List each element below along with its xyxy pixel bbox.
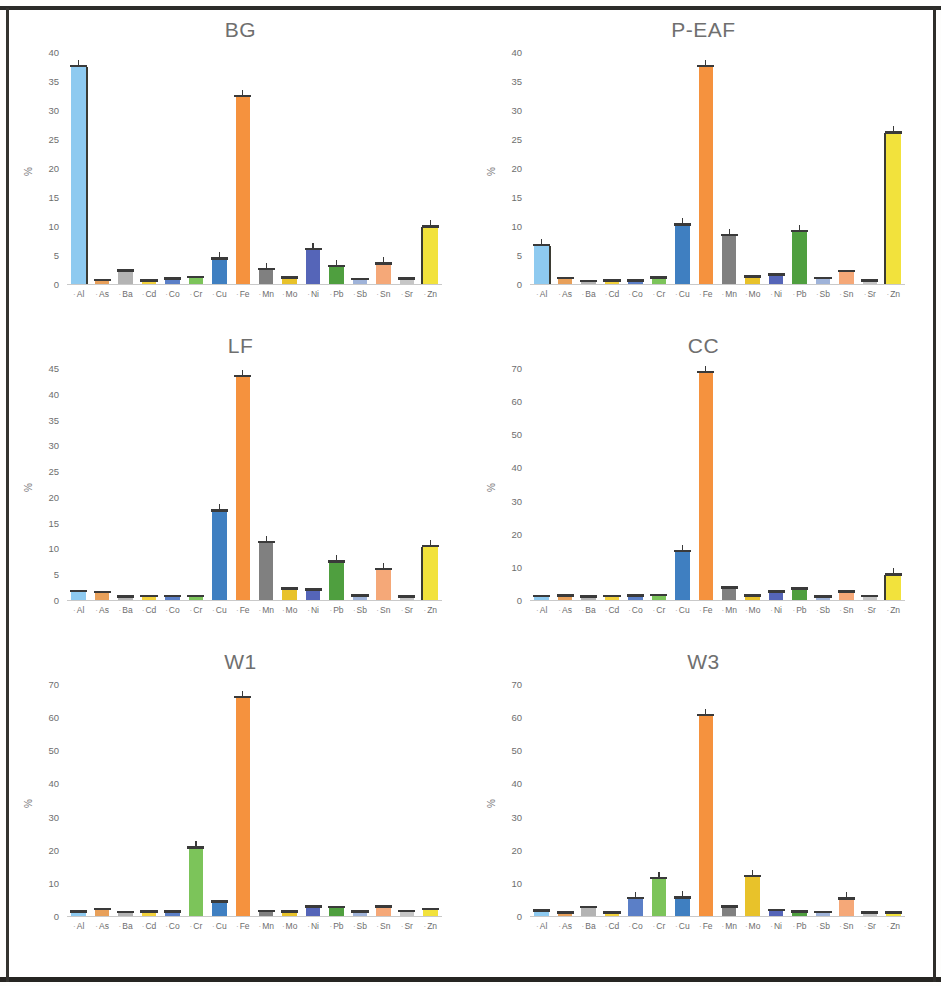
x-tick-label-text: Al [540,605,548,615]
bar-fill [886,575,901,600]
x-tick-label-text: Ni [311,605,319,615]
x-tick-label-ba: ·Ba [119,605,133,615]
chart-panel-w3: W3%010203040506070·Al·As·Ba·Cd·Co·Cr·Cu·… [472,650,935,966]
x-tick-label-text: Co [169,605,180,615]
tick-dot-icon: · [95,606,98,615]
x-tick-label-text: Fe [703,605,713,615]
x-tick-label-text: Mo [286,921,298,931]
error-bar-whisker [266,536,267,543]
x-tick-label-al: ·Al [536,289,547,299]
bar-ni [306,907,321,916]
x-tick-label-cr: ·Cr [190,921,203,931]
y-tick-label: 40 [472,778,522,789]
y-tick-label: 0 [472,279,522,290]
x-axis-line [530,916,905,917]
error-bar-whisker [195,841,196,848]
y-tick-label: 40 [9,47,59,58]
tick-dot-icon: · [236,290,239,299]
y-tick-label: 40 [9,388,59,399]
tick-dot-icon: · [582,606,585,615]
error-bar-cap [861,279,878,282]
x-tick-label-text: As [99,289,109,299]
bar-zn [886,133,901,284]
tick-dot-icon: · [721,290,724,299]
bar-fill [236,97,251,284]
bar-fill [329,908,344,916]
x-tick-label-text: Sb [357,605,367,615]
y-tick-label: 5 [472,250,522,261]
tick-dot-icon: · [73,606,76,615]
tick-dot-icon: · [282,606,285,615]
bar-fill [534,246,549,284]
bar-fill [329,267,344,284]
x-tick-label-mn: ·Mn [258,605,273,615]
tick-dot-icon: · [142,922,145,931]
bar-fill [745,277,760,284]
y-axis-ticks: 010203040506070 [472,684,522,916]
error-bar-cap [211,900,228,903]
y-tick-label: 0 [9,279,59,290]
error-bar-cap [533,909,550,912]
x-tick-label-cr: ·Cr [653,289,666,299]
x-tick-label-text: Co [169,289,180,299]
y-tick-label: 20 [472,163,522,174]
y-tick-label: 25 [472,134,522,145]
chart-panel-bg: BG%0510152025303540·Al·As·Ba·Cd·Co·Cr·Cu… [9,18,472,334]
x-tick-label-ni: ·Ni [307,289,319,299]
x-tick-label-text: Ba [122,921,132,931]
error-bar-cap [744,594,761,597]
y-tick-label: 15 [9,192,59,203]
tick-dot-icon: · [119,290,122,299]
tick-dot-icon: · [95,922,98,931]
x-tick-label-pb: ·Pb [329,921,343,931]
bar-sn [839,899,854,916]
plot-area [530,52,905,284]
bar-fill [376,907,391,916]
bar-fill [306,250,321,284]
tick-dot-icon: · [190,922,193,931]
x-tick-label-ni: ·Ni [307,605,319,615]
x-axis-line [530,284,905,285]
error-bar-cap [398,910,415,913]
tick-dot-icon: · [628,290,631,299]
error-bar-cap [557,277,574,280]
x-tick-label-fe: ·Fe [236,921,250,931]
y-tick-label: 70 [472,363,522,374]
tick-dot-icon: · [675,922,678,931]
error-bar-cap [885,911,902,914]
tick-dot-icon: · [792,606,795,615]
y-axis-ticks: 0510152025303540 [9,52,59,284]
tick-dot-icon: · [886,922,889,931]
y-tick-label: 60 [472,712,522,723]
x-tick-label-pb: ·Pb [792,289,806,299]
x-tick-label-mn: ·Mn [258,289,273,299]
error-bar-cap [603,911,620,914]
x-tick-label-al: ·Al [73,921,84,931]
x-tick-label-co: ·Co [165,605,180,615]
tick-dot-icon: · [401,606,404,615]
x-tick-label-text: Zn [890,605,900,615]
x-tick-label-text: Sr [404,289,413,299]
bar-fill [699,67,714,285]
x-tick-label-sn: ·Sn [376,921,390,931]
x-tick-label-mn: ·Mn [721,605,736,615]
x-tick-label-ba: ·Ba [119,921,133,931]
x-tick-label-co: ·Co [628,605,643,615]
error-bar-cap [140,910,157,913]
x-tick-label-ni: ·Ni [770,605,782,615]
tick-dot-icon: · [653,922,656,931]
tick-dot-icon: · [536,606,539,615]
error-bar-cap [140,279,157,282]
x-tick-label-fe: ·Fe [699,921,713,931]
bar-fill [189,848,204,916]
bar-pb [792,589,807,600]
x-tick-label-al: ·Al [536,605,547,615]
tick-dot-icon: · [653,606,656,615]
x-tick-label-zn: ·Zn [886,605,900,615]
x-tick-label-text: Sb [820,289,830,299]
bar-mo [745,277,760,284]
error-bar-whisker [658,872,659,879]
error-bar-whisker [729,229,730,236]
y-tick-label: 60 [472,396,522,407]
bar-fill [769,275,784,284]
